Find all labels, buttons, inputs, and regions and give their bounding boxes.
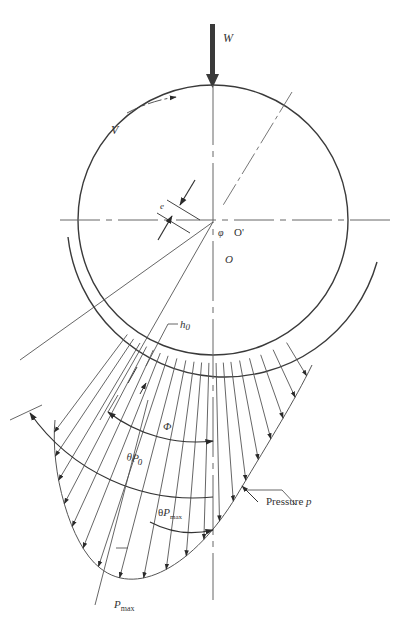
theta-pmax-arc [150,522,213,532]
pressure-pointer-arrow [242,486,258,502]
extent-angle-label: Φ [163,420,172,432]
pressure-arrow [273,350,295,397]
pressure-arrow [64,347,146,504]
bearing-center-label: O [225,253,233,265]
load-label: W [223,31,234,45]
journal-center-label: O' [234,226,244,238]
pressure-arrow [250,358,271,439]
min-film-label: h0 [180,318,191,332]
attitude-angle-label: φ [218,227,224,238]
pressure-label: Pressure p [266,495,312,507]
pressure-envelope [54,365,312,579]
theta-p0-extension [10,405,42,420]
bearing-arc [68,237,377,377]
pressure-arrow [120,358,177,577]
pmax-label: Pmax [113,598,135,613]
pressure-arrow [204,363,209,540]
pressure-arrow [55,339,133,456]
eccentricity-label: e [160,201,164,211]
bearing-diagram: W V e φ O' O h0 Φ θP0 θPmax Pmax Pres [0,0,407,631]
pressure-arrow [287,343,307,376]
theta-pmax-label: θPmax [158,506,183,521]
line-of-centers [222,92,292,207]
theta-p0-label: θP0 [125,450,145,467]
diagram-canvas: W V e φ O' O h0 Φ θP0 θPmax Pmax Pres [0,0,407,631]
pressure-arrow [216,363,219,521]
load-arrow [206,24,219,88]
attitude-reference-line [20,222,213,360]
pressure-arrow [166,362,194,570]
pressure-arrow [186,363,201,556]
pressure-arrow [223,363,233,502]
